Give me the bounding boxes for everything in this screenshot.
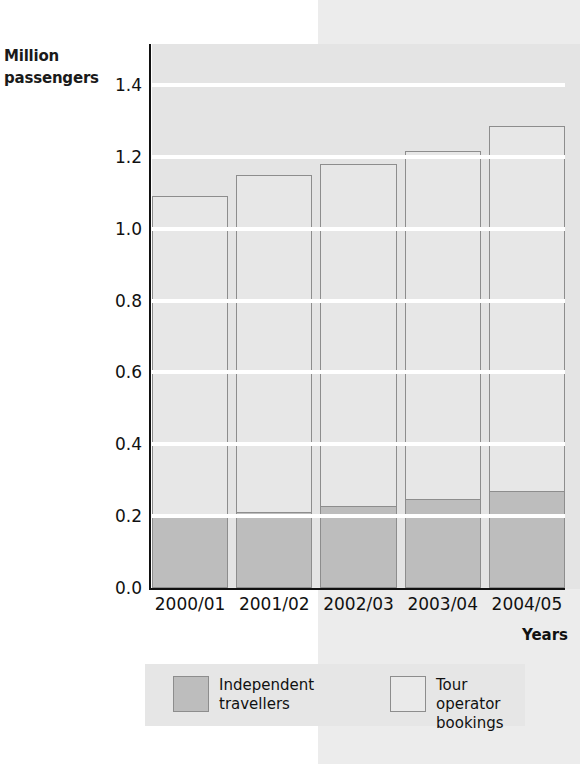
legend-entry[interactable]: Independent travellers bbox=[173, 676, 314, 714]
bar-segment-independent-travellers[interactable] bbox=[405, 500, 481, 588]
x-tick-label: 2001/02 bbox=[229, 594, 319, 614]
bar-segment-tour-operator-bookings[interactable] bbox=[236, 175, 312, 513]
y-tick-label: 0.0 bbox=[94, 578, 142, 598]
bar-segment-independent-travellers[interactable] bbox=[236, 513, 312, 588]
bar-segment-tour-operator-bookings[interactable] bbox=[405, 151, 481, 500]
x-tick-label: 2000/01 bbox=[145, 594, 235, 614]
bar-group[interactable] bbox=[405, 151, 481, 588]
legend-entry[interactable]: Tour operator bookings bbox=[390, 676, 525, 734]
x-axis-line bbox=[149, 588, 565, 590]
bar-segment-independent-travellers[interactable] bbox=[489, 492, 565, 588]
x-tick-label: 2003/04 bbox=[398, 594, 488, 614]
y-tick-label: 1.2 bbox=[94, 147, 142, 167]
y-tick-label: 0.2 bbox=[94, 506, 142, 526]
y-tick-label: 0.4 bbox=[94, 434, 142, 454]
x-axis-tick-labels: 2000/012001/022002/032003/042004/05 bbox=[140, 594, 580, 620]
y-axis-line bbox=[149, 44, 151, 589]
legend-swatch-icon bbox=[173, 676, 209, 712]
gridline bbox=[152, 83, 565, 87]
legend-swatch-icon bbox=[390, 676, 426, 712]
bar-segment-tour-operator-bookings[interactable] bbox=[320, 164, 396, 507]
plot-area bbox=[152, 44, 565, 589]
bar-group[interactable] bbox=[152, 196, 228, 588]
bar-group[interactable] bbox=[489, 126, 565, 588]
x-tick-label: 2004/05 bbox=[482, 594, 572, 614]
legend-label: Tour operator bookings bbox=[436, 676, 525, 734]
x-tick-label: 2002/03 bbox=[314, 594, 404, 614]
bar-segment-tour-operator-bookings[interactable] bbox=[152, 196, 228, 516]
y-tick-label: 1.4 bbox=[94, 75, 142, 95]
legend-label: Independent travellers bbox=[219, 676, 314, 714]
y-tick-label: 0.6 bbox=[94, 362, 142, 382]
bar-segment-independent-travellers[interactable] bbox=[152, 516, 228, 588]
y-tick-label: 1.0 bbox=[94, 219, 142, 239]
chart-legend: Independent travellersTour operator book… bbox=[145, 664, 525, 726]
y-tick-label: 0.8 bbox=[94, 291, 142, 311]
bar-group[interactable] bbox=[320, 164, 396, 588]
bar-segment-tour-operator-bookings[interactable] bbox=[489, 126, 565, 491]
bar-group[interactable] bbox=[236, 175, 312, 588]
bar-segment-independent-travellers[interactable] bbox=[320, 507, 396, 588]
x-axis-title: Years bbox=[522, 626, 568, 644]
